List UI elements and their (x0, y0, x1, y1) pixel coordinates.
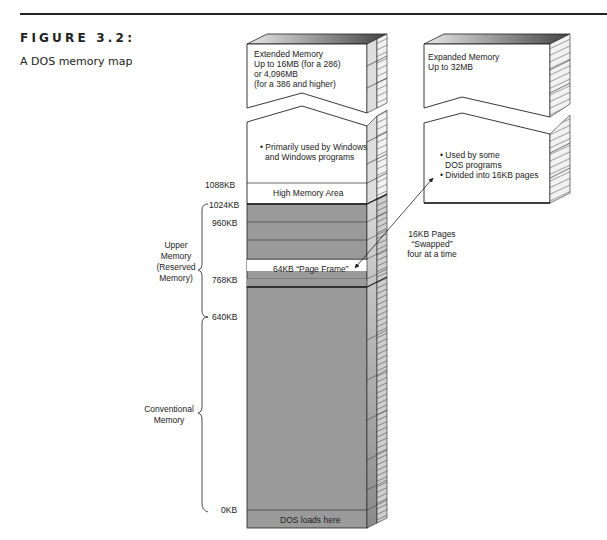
conventional-memory-brace (198, 317, 208, 512)
extended-memory-limit-386: or 4,096MB (254, 69, 298, 79)
conventional-memory-label-1: Conventional (144, 404, 194, 414)
address-1024kb: 1024KB (209, 200, 240, 210)
upper-memory-label-2: Memory (161, 251, 192, 261)
page-frame-label: 64KB “Page Frame” (273, 264, 349, 274)
upper-memory-brace (198, 204, 208, 317)
conventional-memory-label-2: Memory (154, 415, 185, 425)
dos-loads-here-label: DOS loads here (280, 515, 341, 525)
expanded-memory-limit: Up to 32MB (428, 62, 473, 72)
address-768kb: 768KB (212, 275, 238, 285)
address-0kb: 0KB (221, 505, 237, 515)
extended-memory-limit-note: (for a 386 and higher) (254, 79, 336, 89)
expanded-memory-title: Expanded Memory (428, 52, 500, 62)
expanded-bullet-2: • Divided into 16KB pages (440, 170, 538, 180)
high-memory-area-label: High Memory Area (273, 188, 344, 198)
expanded-bullet-1a: • Used by some (440, 150, 500, 160)
swap-note-line3: four at a time (407, 249, 457, 259)
extended-memory-title: Extended Memory (254, 49, 324, 59)
upper-memory-label-1: Upper (164, 240, 187, 250)
windows-usage-line1: • Primarily used by Windows (260, 142, 367, 152)
expanded-memory-top-block (424, 34, 570, 117)
swap-note-line1: 16KB Pages (408, 229, 455, 239)
memory-column-side (367, 194, 387, 528)
conventional-memory-block (247, 287, 367, 528)
expanded-bullet-1b: DOS programs (445, 160, 502, 170)
upper-memory-block (247, 204, 367, 297)
upper-memory-label-4: Memory) (159, 273, 193, 283)
address-960kb: 960KB (212, 218, 238, 228)
upper-memory-label-3: (Reserved (156, 262, 195, 272)
memory-map-diagram: Extended Memory Up to 16MB (for a 286) o… (0, 0, 607, 540)
swap-note-line2: “Swapped” (411, 239, 452, 249)
windows-usage-line2: and Windows programs (265, 152, 354, 162)
address-640kb: 640KB (212, 312, 238, 322)
address-1088kb: 1088KB (205, 180, 236, 190)
extended-memory-limit-286: Up to 16MB (for a 286) (254, 59, 341, 69)
